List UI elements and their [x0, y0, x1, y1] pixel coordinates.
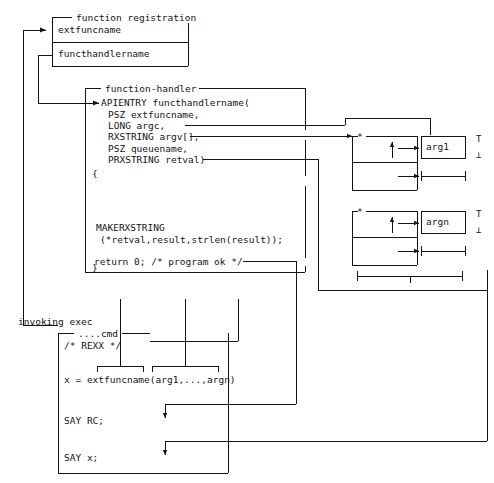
handler-line-rxstring-argv: RXSTRING argv[], — [108, 131, 200, 143]
handler-caption: function-handler — [103, 83, 199, 94]
handler-line-return: return 0; /* program ok */ — [94, 256, 243, 268]
handler-line-close-brace: } — [92, 262, 98, 274]
registration-functhandlername: functhandlername — [58, 48, 150, 60]
exec-caption: invoking exec — [18, 316, 92, 328]
exec-line-comment: /* REXX */ — [64, 340, 121, 352]
arg1-star: * — [357, 131, 363, 143]
argn-bottom-mark: ⊥ — [476, 225, 481, 235]
argn-label: argn — [426, 216, 449, 228]
arg1-bottom-mark: ⊥ — [476, 150, 481, 160]
handler-line-prxstring-retval: PRXSTRING retval) — [108, 154, 205, 166]
handler-line-makerxstring: MAKERXSTRING — [96, 222, 165, 234]
exec-file-label: ....cmd — [76, 328, 120, 339]
exec-line-call: x = extfuncname(arg1,...,argn) — [64, 374, 236, 386]
registration-extfuncname: extfuncname — [58, 24, 121, 36]
registration-caption: function registration — [74, 12, 198, 23]
handler-line-psz-queuename: PSZ queuename, — [108, 143, 188, 155]
arg1-label: arg1 — [426, 141, 449, 153]
exec-line-say-x: SAY x; — [64, 452, 98, 464]
handler-line-psz-extfuncname: PSZ extfuncname, — [108, 109, 200, 121]
diagram-canvas: function registration extfuncname functh… — [0, 0, 494, 483]
argn-top-mark: T — [476, 209, 481, 219]
handler-line-makerxstring-args: (*retval,result,strlen(result)); — [100, 234, 283, 246]
exec-line-say-rc: SAY RC; — [64, 415, 104, 427]
handler-line-long-argc: LONG argc, — [108, 120, 165, 132]
handler-line-apientry: APIENTRY functhandlername( — [101, 97, 250, 109]
argn-star: * — [357, 206, 363, 218]
arg1-top-mark: T — [476, 134, 481, 144]
handler-line-open-brace: { — [92, 168, 98, 180]
